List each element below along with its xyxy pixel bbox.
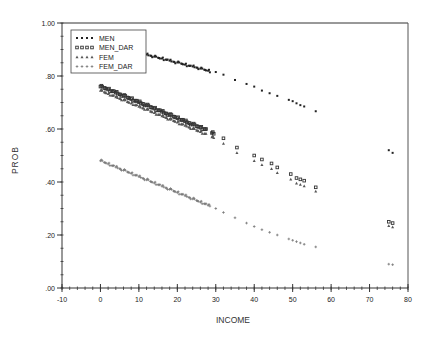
data-point: [288, 99, 290, 101]
data-point: [387, 220, 390, 223]
data-point: [387, 224, 390, 227]
data-point: [269, 92, 271, 94]
data-point: [288, 238, 291, 241]
data-point: [208, 69, 210, 71]
x-axis-title: INCOME: [216, 315, 250, 325]
data-point: [194, 66, 196, 68]
y-tick-label: .60: [45, 126, 55, 133]
data-point: [253, 159, 256, 162]
data-point: [236, 146, 239, 149]
data-point: [222, 137, 225, 140]
data-point: [276, 95, 278, 97]
data-point: [245, 222, 248, 225]
legend-marker: [86, 37, 88, 39]
data-point: [268, 231, 271, 234]
data-point: [186, 65, 188, 67]
data-point: [200, 67, 202, 69]
data-point: [215, 71, 217, 73]
legend-label: FEM_DAR: [99, 63, 132, 71]
data-point: [150, 55, 152, 57]
data-point: [303, 105, 305, 107]
y-tick-label: .00: [45, 285, 55, 292]
legend-marker: [91, 37, 93, 39]
data-point: [289, 178, 292, 181]
data-point: [388, 149, 390, 151]
data-point: [246, 83, 248, 85]
data-point: [253, 154, 256, 157]
data-point: [314, 190, 317, 193]
data-point: [154, 55, 156, 57]
data-point: [391, 225, 394, 228]
data-point: [295, 182, 298, 185]
data-point: [391, 263, 394, 266]
data-point: [315, 110, 317, 112]
data-point: [193, 65, 195, 67]
data-point: [235, 151, 238, 154]
data-point: [196, 67, 198, 69]
data-point: [387, 263, 390, 266]
data-point: [299, 183, 302, 186]
series-men: [130, 49, 393, 154]
legend-label: MEN: [99, 35, 115, 42]
data-point: [261, 228, 264, 231]
data-point: [173, 61, 175, 63]
x-tick-label: 60: [327, 296, 335, 303]
data-point: [234, 79, 236, 81]
data-point: [276, 166, 279, 169]
data-point: [222, 74, 224, 76]
data-point: [314, 246, 317, 249]
data-point: [170, 59, 172, 61]
data-point: [253, 225, 256, 228]
data-point: [146, 53, 148, 55]
data-point: [303, 179, 306, 182]
data-point: [289, 173, 292, 176]
data-point: [299, 242, 302, 245]
data-point: [177, 61, 179, 63]
data-point: [261, 90, 263, 92]
series-fem: [99, 88, 394, 228]
data-point: [270, 162, 273, 165]
x-tick-label: 10: [135, 296, 143, 303]
series-men-dar: [99, 84, 394, 224]
scatter-chart: .00.20.40.60.801.00 -1001020304050607080…: [0, 0, 427, 355]
x-tick-label: -10: [57, 296, 67, 303]
data-point: [276, 234, 279, 237]
data-point: [166, 59, 168, 61]
data-point: [314, 186, 317, 189]
data-point: [299, 178, 302, 181]
y-tick-label: 1.00: [41, 20, 55, 27]
data-point: [162, 57, 164, 59]
data-point: [222, 142, 225, 145]
data-point: [295, 240, 298, 243]
data-point: [392, 152, 394, 154]
x-tick-label: 70: [366, 296, 374, 303]
y-tick-label: .80: [45, 73, 55, 80]
x-tick-label: 50: [289, 296, 297, 303]
legend-label: FEM: [99, 54, 114, 61]
x-tick-label: 40: [250, 296, 258, 303]
legend-marker: [76, 37, 78, 39]
data-point: [185, 63, 187, 65]
data-point: [303, 184, 306, 187]
data-point: [270, 167, 273, 170]
data-point: [296, 102, 298, 104]
x-axis: -1001020304050607080: [57, 284, 412, 303]
data-point: [181, 63, 183, 65]
data-point: [189, 65, 191, 67]
series-fem-dar: [99, 159, 394, 266]
legend-marker: [81, 37, 83, 39]
y-tick-label: .40: [45, 179, 55, 186]
x-tick-label: 80: [404, 296, 412, 303]
data-point: [260, 163, 263, 166]
data-point: [295, 177, 298, 180]
x-tick-label: 0: [98, 296, 102, 303]
data-point: [292, 100, 294, 102]
data-point: [214, 207, 217, 210]
y-axis: .00.20.40.60.801.00: [41, 20, 63, 292]
data-point: [291, 239, 294, 242]
data-point: [234, 216, 237, 219]
data-point: [204, 69, 206, 71]
data-point: [222, 211, 225, 214]
data-point: [299, 104, 301, 106]
data-point: [261, 158, 264, 161]
